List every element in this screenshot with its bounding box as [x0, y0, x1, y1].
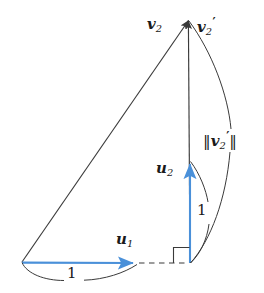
- label-v2-name: v: [147, 15, 156, 33]
- vector-v2-line: [22, 21, 189, 263]
- norm-bar-open: ‖: [203, 132, 211, 150]
- label-v2prime-subscript: 2: [206, 26, 212, 37]
- label-unit-length-bottom: 1: [67, 266, 77, 281]
- label-u1-name: u: [116, 230, 127, 248]
- label-v2prime-name: v: [197, 18, 206, 36]
- label-vector-v2-prime: v2′: [197, 17, 216, 37]
- measure-arc-norm-top: [189, 21, 231, 129]
- label-v2prime-prime-mark: ′: [213, 16, 216, 30]
- label-vector-u2: u2: [156, 161, 173, 178]
- measure-arc-unit-bottom: [191, 224, 210, 263]
- label-norm-v2-prime: ‖v2′‖: [203, 131, 237, 151]
- label-unit-length-right: 1: [197, 203, 207, 218]
- label-v2-subscript: 2: [156, 23, 162, 34]
- label-u1-subscript: 1: [127, 238, 133, 249]
- measure-arc-unit-top: [191, 162, 209, 203]
- right-angle-marker: [174, 248, 190, 264]
- label-norm-subscript: 2: [219, 140, 225, 151]
- label-vector-v2: v2: [147, 17, 162, 34]
- label-u2-subscript: 2: [167, 167, 173, 178]
- norm-bar-close: ‖: [229, 132, 237, 150]
- vector-diagram: v2 v2′ ‖v2′‖ u2 u1 1 1: [0, 0, 264, 293]
- label-u2-name: u: [156, 159, 167, 177]
- measure-arc-bottom-left: [22, 263, 64, 281]
- measure-arc-bottom-right: [84, 265, 137, 281]
- label-vector-u1: u1: [116, 232, 133, 249]
